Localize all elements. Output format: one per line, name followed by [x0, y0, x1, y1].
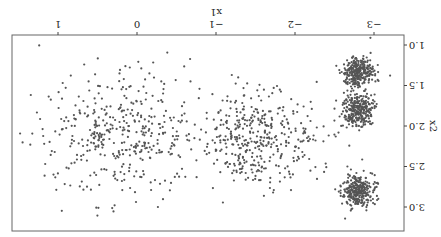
- data-point: [368, 103, 370, 105]
- data-point: [287, 123, 289, 125]
- data-point: [144, 143, 146, 145]
- data-point: [357, 203, 359, 205]
- data-point: [150, 108, 152, 110]
- data-point: [363, 124, 365, 126]
- data-point: [355, 71, 357, 73]
- data-point: [81, 181, 83, 183]
- data-point: [223, 139, 225, 141]
- data-point: [367, 201, 369, 203]
- data-point: [349, 62, 351, 64]
- data-point: [225, 162, 227, 164]
- data-point: [284, 176, 286, 178]
- data-point: [120, 171, 122, 173]
- plot-frame: [12, 35, 404, 231]
- data-point: [377, 198, 379, 200]
- data-point: [349, 109, 351, 111]
- data-point: [366, 108, 368, 110]
- y-tick-label: 1.5: [409, 80, 425, 91]
- data-point: [365, 199, 367, 201]
- data-point: [345, 102, 347, 104]
- data-point: [369, 186, 371, 188]
- data-point: [161, 101, 163, 103]
- data-point: [106, 112, 108, 114]
- data-point: [158, 123, 160, 125]
- data-point: [157, 139, 159, 141]
- x-tick-label: −2: [288, 19, 303, 30]
- data-point: [102, 119, 104, 121]
- data-point: [140, 67, 142, 69]
- data-point: [251, 152, 253, 154]
- data-point: [335, 135, 337, 137]
- data-point: [348, 187, 350, 189]
- data-point: [269, 181, 271, 183]
- data-point: [130, 113, 132, 115]
- data-point: [374, 107, 376, 109]
- data-point: [357, 185, 359, 187]
- data-point: [52, 174, 54, 176]
- data-point: [362, 118, 364, 120]
- data-point: [285, 145, 287, 147]
- data-point: [260, 158, 262, 160]
- data-point: [130, 102, 132, 104]
- data-point: [346, 106, 348, 108]
- y-tick-label: 3.0: [409, 202, 425, 213]
- data-point: [94, 97, 96, 99]
- data-point: [346, 110, 348, 112]
- data-point: [216, 159, 218, 161]
- data-point: [138, 90, 140, 92]
- data-point: [265, 145, 267, 147]
- data-point: [89, 149, 91, 151]
- data-point: [273, 189, 275, 191]
- data-point: [219, 135, 221, 137]
- data-point: [354, 73, 356, 75]
- data-point: [141, 145, 143, 147]
- data-point: [185, 135, 187, 137]
- data-point: [346, 59, 348, 61]
- data-point: [235, 169, 237, 171]
- data-point: [350, 179, 352, 181]
- data-point: [313, 134, 315, 136]
- data-point: [279, 172, 281, 174]
- data-point: [229, 163, 231, 165]
- data-point: [361, 118, 363, 120]
- data-point: [82, 100, 84, 102]
- data-point: [251, 171, 253, 173]
- data-point: [258, 124, 260, 126]
- data-point: [281, 153, 283, 155]
- data-point: [136, 114, 138, 116]
- data-point: [49, 141, 51, 143]
- data-point: [273, 141, 275, 143]
- data-point: [238, 157, 240, 159]
- data-point: [362, 186, 364, 188]
- data-point: [220, 109, 222, 111]
- data-point: [352, 62, 354, 64]
- data-point: [80, 155, 82, 157]
- data-point: [120, 88, 122, 90]
- data-point: [359, 102, 361, 104]
- data-point: [181, 105, 183, 107]
- data-point: [264, 132, 266, 134]
- data-point: [355, 189, 357, 191]
- data-point: [360, 59, 362, 61]
- data-point: [354, 97, 356, 99]
- data-point: [365, 104, 367, 106]
- data-point: [298, 158, 300, 160]
- data-point: [343, 188, 345, 190]
- data-point: [198, 97, 200, 99]
- data-point: [228, 115, 230, 117]
- data-point: [143, 145, 145, 147]
- data-point: [372, 202, 374, 204]
- data-point: [106, 122, 108, 124]
- data-point: [354, 181, 356, 183]
- data-point: [110, 123, 112, 125]
- data-point: [75, 118, 77, 120]
- data-point: [233, 170, 235, 172]
- data-point: [253, 110, 255, 112]
- data-point: [245, 172, 247, 174]
- data-point: [350, 80, 352, 82]
- data-point: [374, 93, 376, 95]
- data-point: [154, 179, 156, 181]
- data-point: [204, 150, 206, 152]
- data-point: [65, 87, 67, 89]
- data-point: [260, 150, 262, 152]
